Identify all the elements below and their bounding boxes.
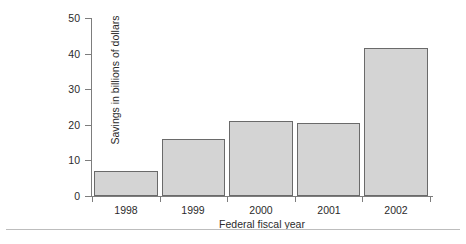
bar-1999 — [162, 139, 226, 196]
y-tick-40 — [85, 54, 91, 55]
x-tick-2000 — [227, 197, 228, 202]
x-tick-label-1998: 1998 — [96, 204, 156, 216]
x-tick-1998 — [92, 197, 93, 202]
bar-2000 — [229, 121, 293, 196]
x-axis-line — [91, 196, 433, 197]
bar-1998 — [94, 171, 158, 196]
y-tick-label-50: 50 — [40, 13, 80, 23]
x-tick-1999 — [160, 197, 161, 202]
y-tick-30 — [85, 89, 91, 90]
y-tick-label-wrap-0: 0 — [38, 191, 80, 201]
y-tick-label-30: 30 — [40, 84, 80, 94]
y-tick-50 — [85, 18, 91, 19]
x-tick-end — [430, 197, 431, 202]
x-tick-label-2000: 2000 — [231, 204, 291, 216]
y-axis-title: Savings in billions of dollars — [109, 0, 121, 165]
y-tick-20 — [85, 125, 91, 126]
y-tick-label-wrap-10: 10 — [38, 155, 80, 165]
bar-chart-figure: Savings in billions of dollars 010203040… — [0, 0, 466, 244]
y-tick-label-20: 20 — [40, 120, 80, 130]
y-axis-line — [91, 18, 92, 197]
x-tick-label-2002: 2002 — [366, 204, 426, 216]
y-tick-label-wrap-40: 40 — [38, 49, 80, 59]
y-tick-label-wrap-50: 50 — [38, 13, 80, 23]
y-tick-label-wrap-30: 30 — [38, 84, 80, 94]
bar-2001 — [297, 123, 361, 196]
y-tick-label-wrap-20: 20 — [38, 120, 80, 130]
x-tick-2002 — [362, 197, 363, 202]
y-tick-0 — [85, 196, 91, 197]
x-tick-label-2001: 2001 — [299, 204, 359, 216]
bar-2002 — [364, 48, 428, 196]
y-tick-label-0: 0 — [40, 191, 80, 201]
y-tick-label-40: 40 — [40, 49, 80, 59]
x-tick-2001 — [295, 197, 296, 202]
y-tick-label-10: 10 — [40, 155, 80, 165]
x-tick-label-1999: 1999 — [163, 204, 223, 216]
y-tick-10 — [85, 160, 91, 161]
footer-divider — [6, 229, 460, 230]
plot-area: Savings in billions of dollars — [92, 18, 430, 196]
